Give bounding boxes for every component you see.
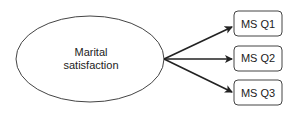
arrow-q1 [164,27,232,59]
latent-label-line2: satisfaction [63,59,118,71]
indicator-q1: MS Q1 [234,11,282,36]
arrow-q3 [164,59,232,92]
indicator-label: MS Q3 [241,87,275,99]
indicator-label: MS Q2 [241,52,275,64]
indicator-label: MS Q1 [241,18,275,30]
indicator-q2: MS Q2 [234,46,282,71]
sem-diagram: Marital satisfaction MS Q1 MS Q2 MS Q3 [0,0,297,114]
latent-label-line1: Marital [74,46,107,58]
indicator-q3: MS Q3 [234,80,282,105]
latent-variable: Marital satisfaction [16,16,164,102]
arrows [164,27,232,92]
